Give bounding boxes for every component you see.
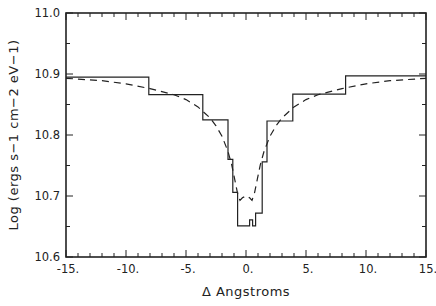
x-tick-labels: -15.-10.-5.0.5.10.15. (57, 262, 436, 276)
x-axis-title: Δ Angstroms (202, 284, 290, 299)
x-tick-label: -15. (57, 262, 79, 276)
axis-ticks (66, 13, 426, 257)
y-tick-labels: 10.610.710.810.911.0 (34, 6, 60, 264)
y-axis-title: Log (ergs s−1 cm−2 eV−1) (6, 40, 21, 231)
binned-step-profile (66, 76, 426, 226)
y-tick-label: 10.6 (34, 250, 60, 264)
x-tick-label: -5. (180, 262, 195, 276)
spectral-line-profile-chart: -15.-10.-5.0.5.10.15. 10.610.710.810.911… (0, 0, 436, 306)
plot-frame (66, 13, 426, 257)
x-tick-label: 5. (303, 262, 314, 276)
x-tick-label: 10. (359, 262, 377, 276)
x-tick-label: 15. (419, 262, 436, 276)
y-tick-label: 10.9 (34, 67, 60, 81)
x-tick-label: 0. (243, 262, 254, 276)
y-tick-label: 10.8 (34, 128, 60, 142)
y-tick-label: 10.7 (34, 189, 60, 203)
model-dashed-profile (66, 78, 426, 200)
y-tick-label: 11.0 (34, 6, 60, 20)
x-tick-label: -10. (117, 262, 139, 276)
